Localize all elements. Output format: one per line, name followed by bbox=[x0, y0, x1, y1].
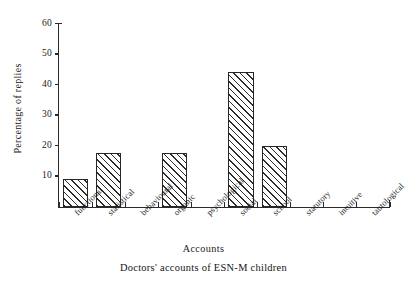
y-axis-tick-label: 30 bbox=[0, 110, 52, 120]
y-axis-tick-label: 40 bbox=[0, 80, 52, 90]
bar-chart-figure: 102030405060 functionalstatisticalbehavi… bbox=[0, 0, 407, 281]
y-axis-title: Percentage of replies bbox=[12, 44, 23, 174]
y-axis-tick bbox=[55, 114, 59, 115]
x-axis-title: Accounts bbox=[0, 243, 407, 254]
y-axis-tick bbox=[55, 84, 59, 85]
y-axis-tick-label-wrap: 50 bbox=[0, 49, 52, 59]
y-axis-tick-label: 50 bbox=[0, 49, 52, 59]
y-axis-tick-label: 10 bbox=[0, 171, 52, 181]
x-axis-label-statutory: statutory bbox=[304, 189, 332, 217]
x-axis-label-tautological: tautological bbox=[370, 181, 406, 217]
x-axis-label-intuitive: intuitive bbox=[337, 190, 364, 217]
y-axis-tick-label-wrap: 60 bbox=[0, 19, 52, 29]
y-axis-tick bbox=[55, 23, 59, 24]
y-axis-tick bbox=[55, 53, 59, 54]
y-axis-tick-label: 20 bbox=[0, 141, 52, 151]
figure-caption: Doctors' accounts of ESN-M children bbox=[0, 262, 407, 273]
y-axis-tick-label-wrap: 20 bbox=[0, 141, 52, 151]
y-axis-tick-label: 60 bbox=[0, 19, 52, 29]
y-axis-tick bbox=[55, 175, 59, 176]
y-axis-tick-label-wrap: 30 bbox=[0, 110, 52, 120]
x-axis-tick bbox=[58, 202, 59, 207]
y-axis-tick bbox=[55, 145, 59, 146]
y-axis-tick-label-wrap: 10 bbox=[0, 171, 52, 181]
y-axis-tick-label-wrap: 40 bbox=[0, 80, 52, 90]
